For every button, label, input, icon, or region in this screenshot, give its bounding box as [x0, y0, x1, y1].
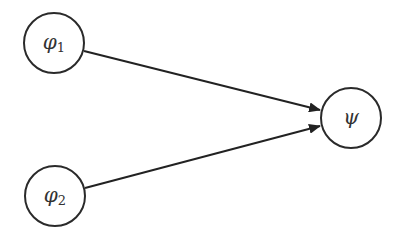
diagram-canvas: φ1 φ2 ψ	[0, 0, 405, 240]
edge-phi1-to-psi	[84, 51, 320, 110]
node-psi: ψ	[321, 88, 381, 148]
node-phi1: φ1	[24, 13, 84, 73]
edge-phi2-to-psi	[85, 126, 320, 188]
node-psi-label: ψ	[343, 105, 359, 129]
node-phi2: φ2	[25, 166, 85, 226]
